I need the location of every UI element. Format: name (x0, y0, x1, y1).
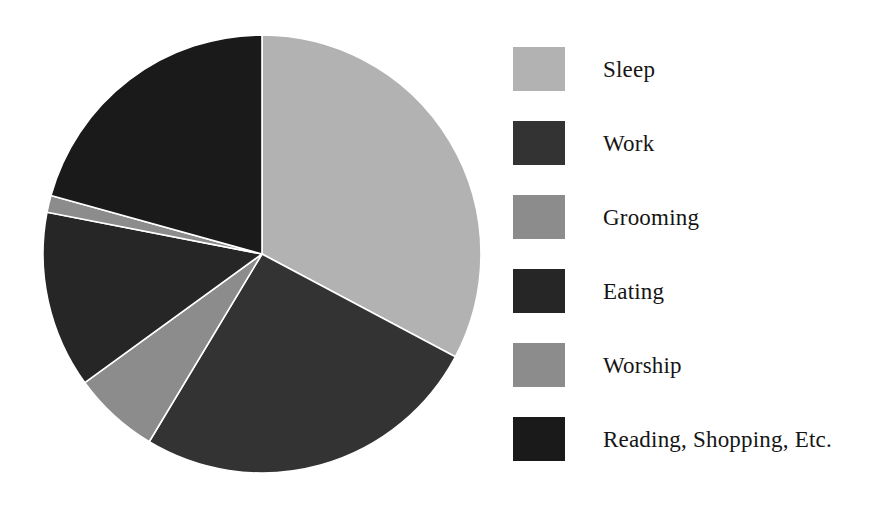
legend-label-work: Work (603, 132, 654, 155)
legend-label-reading-shopping-etc: Reading, Shopping, Etc. (603, 428, 832, 451)
legend-item-grooming[interactable]: Grooming (513, 180, 873, 254)
legend-swatch-eating (513, 269, 565, 313)
pie-chart-figure: Sleep Work Grooming Eating Worship Readi… (0, 0, 881, 508)
legend-label-worship: Worship (603, 354, 682, 377)
legend-swatch-sleep (513, 47, 565, 91)
legend-item-eating[interactable]: Eating (513, 254, 873, 328)
legend-label-sleep: Sleep (603, 58, 655, 81)
legend-item-work[interactable]: Work (513, 106, 873, 180)
chart-legend: Sleep Work Grooming Eating Worship Readi… (513, 32, 873, 476)
legend-swatch-worship (513, 343, 565, 387)
legend-swatch-grooming (513, 195, 565, 239)
legend-label-grooming: Grooming (603, 206, 699, 229)
legend-item-sleep[interactable]: Sleep (513, 32, 873, 106)
pie-chart-svg (42, 34, 482, 474)
legend-label-eating: Eating (603, 280, 664, 303)
legend-swatch-reading-shopping-etc (513, 417, 565, 461)
legend-swatch-work (513, 121, 565, 165)
legend-item-reading-shopping-etc[interactable]: Reading, Shopping, Etc. (513, 402, 873, 476)
legend-item-worship[interactable]: Worship (513, 328, 873, 402)
pie-chart-plot-area (42, 34, 482, 474)
pie-slice-group (43, 35, 481, 473)
